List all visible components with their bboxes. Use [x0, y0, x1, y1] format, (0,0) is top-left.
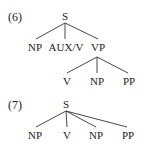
edge — [67, 57, 97, 73]
tree-6: (6) S NP AUX/V VP V NP PP — [8, 10, 135, 87]
syntax-trees: (6) S NP AUX/V VP V NP PP (7) S NP V NP … — [0, 0, 144, 147]
edge — [65, 23, 98, 39]
node-v: V — [63, 129, 71, 141]
edge — [66, 111, 96, 127]
tree-7: (7) S NP V NP PP — [8, 98, 134, 141]
example-number: (6) — [8, 10, 22, 24]
edge — [36, 23, 65, 39]
edge — [36, 111, 66, 127]
edge — [66, 111, 127, 127]
node-pp: PP — [123, 75, 135, 87]
node-aux-v: AUX/V — [49, 41, 84, 53]
node-s: S — [63, 98, 69, 110]
edge — [97, 57, 128, 73]
edge — [66, 111, 67, 127]
node-np: NP — [28, 41, 42, 53]
node-np: NP — [89, 129, 103, 141]
node-v: V — [63, 75, 71, 87]
node-np: NP — [90, 75, 104, 87]
example-number: (7) — [8, 98, 22, 112]
node-vp: VP — [91, 41, 105, 53]
node-pp: PP — [122, 129, 134, 141]
node-np: NP — [28, 129, 42, 141]
node-s: S — [62, 10, 68, 22]
